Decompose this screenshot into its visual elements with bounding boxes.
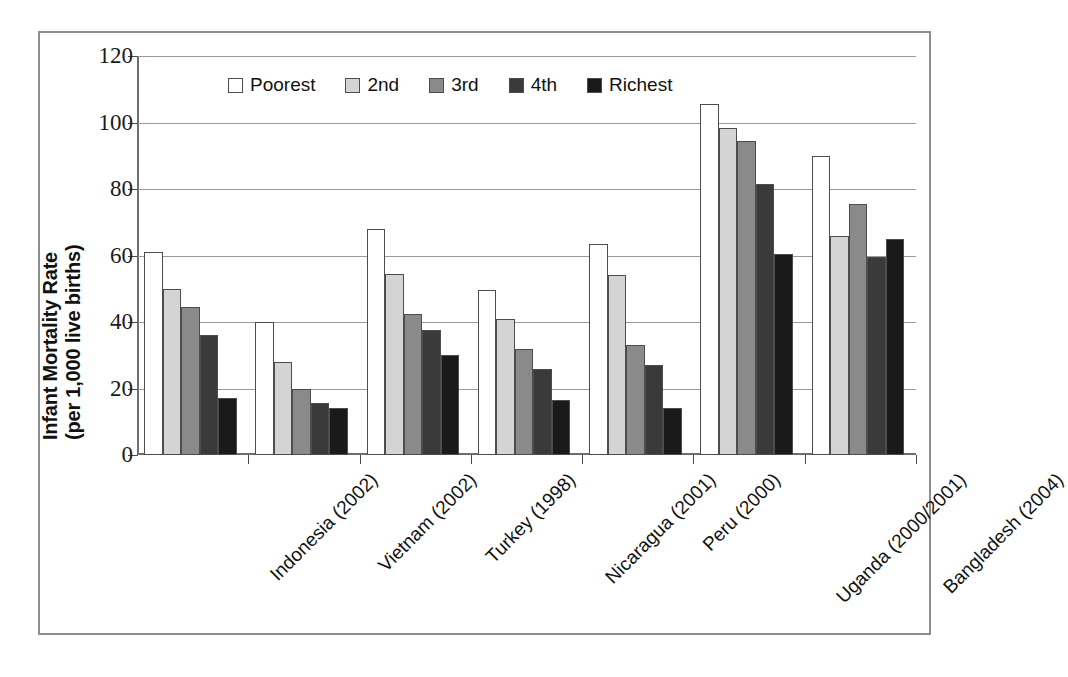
x-axis-labels: Indonesia (2002)Vietnam (2002)Turkey (19…	[137, 455, 916, 635]
bar	[218, 398, 237, 455]
bar	[478, 290, 497, 455]
bar	[274, 362, 293, 455]
bar-group	[471, 56, 582, 455]
bar	[496, 319, 515, 455]
legend-label: Poorest	[250, 74, 315, 96]
bar	[181, 307, 200, 455]
y-tick-label: 80	[53, 176, 133, 202]
legend-item: Poorest	[228, 74, 315, 96]
legend-label: Richest	[609, 74, 672, 96]
bar	[367, 229, 386, 455]
legend-item: Richest	[587, 74, 672, 96]
bar	[144, 252, 163, 455]
bar	[385, 274, 404, 455]
x-axis-label: Turkey (1998)	[481, 469, 580, 568]
bar	[200, 335, 219, 455]
bar	[552, 400, 571, 455]
y-axis-title-line-1: Infant Mortality Rate	[39, 252, 62, 440]
bar	[441, 355, 460, 455]
legend-swatch-icon	[509, 78, 524, 93]
legend-swatch-icon	[587, 78, 602, 93]
bar	[404, 314, 423, 455]
bar	[608, 275, 627, 455]
bar	[533, 369, 552, 455]
bar	[422, 330, 441, 455]
legend-item: 4th	[509, 74, 557, 96]
bar	[329, 408, 348, 455]
bar	[737, 141, 756, 455]
bar	[663, 408, 682, 455]
y-tick-label: 0	[53, 442, 133, 468]
bar	[719, 128, 738, 456]
bar	[812, 156, 831, 455]
legend-item: 2nd	[345, 74, 399, 96]
plot-area: 020406080100120	[137, 56, 916, 455]
y-axis-title-line-2: (per 1,000 live births)	[62, 245, 85, 440]
bar	[626, 345, 645, 455]
bar-group	[693, 56, 804, 455]
bar	[756, 184, 775, 455]
legend-label: 2nd	[367, 74, 399, 96]
x-tick-mark	[916, 455, 917, 464]
bar	[867, 257, 886, 455]
bar	[589, 244, 608, 455]
y-tick-label: 20	[53, 376, 133, 402]
bar	[515, 349, 534, 455]
chart-legend: Poorest2nd3rd4thRichest	[228, 74, 672, 96]
bar	[830, 236, 849, 455]
bar	[645, 365, 664, 455]
bar-group	[805, 56, 916, 455]
y-tick-label: 120	[53, 43, 133, 69]
legend-label: 4th	[531, 74, 557, 96]
bar-group	[137, 56, 248, 455]
bar	[849, 204, 868, 455]
bar	[774, 254, 793, 455]
x-axis-label: Vietnam (2002)	[373, 469, 480, 576]
bars-layer	[137, 56, 916, 455]
y-tick-label: 40	[53, 309, 133, 335]
bar	[886, 239, 905, 455]
legend-label: 3rd	[451, 74, 478, 96]
x-axis-label: Nicaragua (2001)	[601, 469, 720, 588]
bar	[255, 322, 274, 455]
y-tick-label: 100	[53, 110, 133, 136]
bar-group	[582, 56, 693, 455]
legend-swatch-icon	[429, 78, 444, 93]
bar	[163, 289, 182, 455]
bar	[292, 389, 311, 456]
y-tick-label: 60	[53, 243, 133, 269]
bar-group	[360, 56, 471, 455]
bar	[700, 104, 719, 455]
legend-item: 3rd	[429, 74, 478, 96]
bar-group	[248, 56, 359, 455]
legend-swatch-icon	[228, 78, 243, 93]
bar	[311, 403, 330, 455]
legend-swatch-icon	[345, 78, 360, 93]
x-axis-label: Indonesia (2002)	[266, 469, 382, 585]
